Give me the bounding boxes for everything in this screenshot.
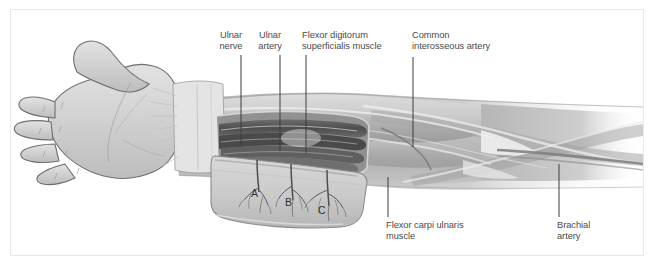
marker-c-text: C [318,204,326,216]
finger-index [19,97,55,118]
finger-middle [14,121,53,140]
label-common-interosseous-artery: Common interosseous artery [412,30,516,51]
bundle-specular-highlight [281,129,321,147]
hand-group [14,41,180,185]
marker-b-text: B [285,196,292,208]
figure-caption [12,265,342,273]
label-flexor-carpi-ulnaris-muscle: Flexor carpi ulnaris muscle [386,220,496,241]
finger-little [37,164,75,185]
marker-a-text: A [251,187,258,199]
finger-ring [21,144,59,162]
figure-root: A B C Ulnar nerve Ulnar artery Flexor di… [0,0,655,274]
label-flexor-digitorum-superficialis-muscle: Flexor digitorum superficialis muscle [302,30,406,51]
figure-frame: A B C Ulnar nerve Ulnar artery Flexor di… [10,9,644,256]
label-brachial-artery: Brachial artery [557,220,627,241]
finger-tick-8 [77,168,79,174]
label-ulnar-nerve: Ulnar nerve [212,30,250,51]
label-ulnar-artery: Ulnar artery [251,30,289,51]
